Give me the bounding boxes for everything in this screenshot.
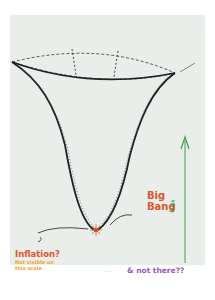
sketch-paper: Big Bang Inflation? Not visible on this … bbox=[10, 15, 205, 265]
not-there-label: & not there?? bbox=[127, 266, 184, 275]
inflation-note-line2: this scale bbox=[15, 266, 54, 272]
funnel-diagram bbox=[10, 15, 205, 265]
big-bang-point bbox=[90, 224, 102, 236]
inflation-label: Inflation? bbox=[15, 249, 60, 259]
dots-label: ..... bbox=[105, 268, 112, 273]
time-axis-label: time bbox=[170, 200, 176, 213]
inflation-note: Not visible on this scale bbox=[15, 260, 54, 271]
